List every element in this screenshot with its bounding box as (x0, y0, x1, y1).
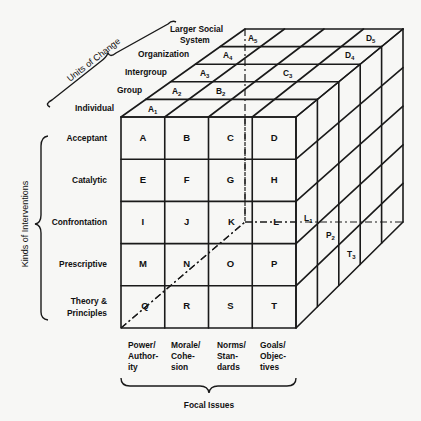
col-goals-line2: Objec- (260, 351, 286, 361)
cell-J: J (184, 216, 189, 227)
cell-E: E (140, 174, 146, 185)
focal-issue-labels: Power/ Author- ity Morale/ Cohe- sion No… (128, 340, 286, 372)
cell-S: S (227, 300, 233, 311)
top-label-A4: A4 (223, 50, 233, 61)
top-label-C3: C3 (283, 68, 293, 79)
focal-issues-title: Focal Issues (184, 400, 235, 410)
col-power-line3: ity (128, 362, 138, 372)
cell-A: A (139, 132, 146, 143)
focal-issues-brace: Focal Issues (121, 378, 296, 410)
kinds-of-interventions-title: Kinds of Interventions (20, 180, 30, 267)
cell-L: L (273, 216, 279, 227)
intervention-row-labels: Acceptant Catalytic Confrontation Prescr… (52, 133, 108, 318)
col-morale-line2: Cohe- (171, 351, 195, 361)
row-prescriptive: Prescriptive (59, 259, 107, 269)
top-label-D4: D4 (345, 50, 355, 61)
top-label-B2: B2 (216, 86, 226, 97)
cell-B: B (183, 132, 190, 143)
col-power-line1: Power/ (128, 340, 156, 350)
top-label-A5: A5 (248, 33, 258, 44)
units-of-change-title: Units of Change (65, 36, 122, 84)
top-label-A2: A2 (172, 86, 182, 97)
col-goals-line1: Goals/ (260, 340, 286, 350)
side-label-P2: P2 (326, 230, 336, 241)
top-label-A3: A3 (200, 68, 210, 79)
cell-Q: Q (141, 300, 148, 311)
side-label-L1: L1 (304, 213, 313, 224)
col-norms-line1: Norms/ (217, 340, 247, 350)
units-of-change-brace: Units of Change (47, 21, 176, 107)
cell-P: P (271, 258, 278, 269)
level-individual: Individual (75, 103, 114, 113)
interventions-brace: Kinds of Interventions (20, 136, 48, 320)
cell-I: I (142, 216, 145, 227)
row-confrontation: Confrontation (52, 217, 107, 227)
cell-K: K (228, 216, 235, 227)
level-group: Group (117, 85, 142, 95)
col-goals-line3: tives (260, 362, 279, 372)
cell-M: M (139, 258, 147, 269)
row-theory: Theory & (71, 296, 107, 306)
level-organization: Organization (138, 49, 189, 59)
cell-H: H (271, 174, 278, 185)
cell-T: T (271, 300, 277, 311)
top-label-A1: A1 (148, 104, 158, 115)
cube-side-face (296, 29, 403, 328)
side-label-T3: T3 (347, 249, 356, 260)
cell-N: N (183, 258, 190, 269)
top-label-D5: D5 (366, 33, 376, 44)
cube-svg: A B C D E F G H I J K L M N O P Q R S T … (0, 0, 421, 421)
col-power-line2: Author- (128, 351, 158, 361)
col-morale-line3: sion (171, 362, 188, 372)
cell-R: R (183, 300, 190, 311)
col-norms-line2: Stan- (217, 351, 238, 361)
row-principles: Principles (67, 308, 107, 318)
cell-D: D (271, 132, 278, 143)
col-norms-line3: dards (217, 362, 240, 372)
row-catalytic: Catalytic (72, 175, 107, 185)
cube-front-face (121, 117, 296, 328)
level-larger-social: Larger Social (170, 24, 223, 34)
intervention-cube-diagram: A B C D E F G H I J K L M N O P Q R S T … (0, 0, 421, 421)
row-acceptant: Acceptant (67, 133, 108, 143)
cell-G: G (227, 174, 234, 185)
cell-F: F (184, 174, 190, 185)
level-intergroup: Intergroup (125, 67, 167, 77)
col-morale-line1: Morale/ (171, 340, 201, 350)
cell-O: O (227, 258, 234, 269)
level-larger-social-system: System (180, 35, 210, 45)
cell-C: C (227, 132, 234, 143)
